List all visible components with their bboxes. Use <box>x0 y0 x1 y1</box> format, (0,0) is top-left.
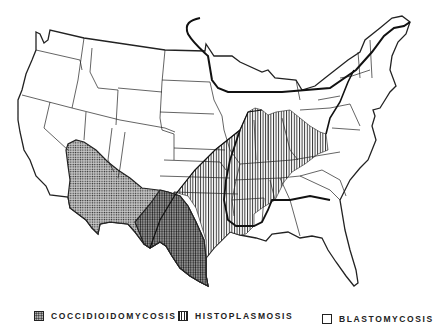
legend-item-histoplasmosis: HISTOPLASMOSIS <box>178 311 293 321</box>
vertical-lines-pattern-icon <box>178 311 188 321</box>
legend-label: BLASTOMYCOSIS <box>339 314 434 324</box>
legend-label: COCCIDIOIDOMYCOSIS <box>51 311 177 321</box>
legend: COCCIDIOIDOMYCOSIS HISTOPLASMOSIS BLASTO… <box>0 311 444 331</box>
legend-item-blastomycosis: BLASTOMYCOSIS <box>322 314 434 324</box>
legend-item-coccidioidomycosis: COCCIDIOIDOMYCOSIS <box>34 311 177 321</box>
empty-box-icon <box>322 314 332 324</box>
us-mycoses-map <box>0 0 444 300</box>
dotted-pattern-icon <box>34 311 44 321</box>
legend-label: HISTOPLASMOSIS <box>195 311 293 321</box>
